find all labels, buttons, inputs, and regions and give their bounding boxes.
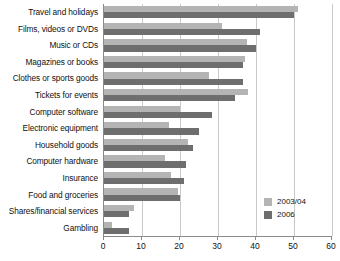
bar-chart: Travel and holidaysFilms, videos or DVDs… bbox=[0, 0, 340, 261]
bar bbox=[104, 12, 294, 18]
category-label: Computer software bbox=[0, 104, 101, 121]
legend-label: 2003/04 bbox=[277, 197, 306, 206]
bar bbox=[104, 95, 235, 101]
bar-group bbox=[104, 37, 332, 54]
bar bbox=[104, 79, 243, 85]
tick-label: 10 bbox=[136, 241, 145, 251]
bar bbox=[104, 29, 260, 35]
tick-label: 40 bbox=[250, 241, 259, 251]
tick-label: 60 bbox=[326, 241, 335, 251]
bar-group bbox=[104, 21, 332, 38]
bar-group bbox=[104, 70, 332, 87]
chart-legend: 2003/042006 bbox=[264, 197, 306, 223]
tick-label: 30 bbox=[212, 241, 221, 251]
bar bbox=[104, 161, 186, 167]
category-label: Electronic equipment bbox=[0, 120, 101, 137]
legend-swatch bbox=[264, 198, 272, 206]
bar bbox=[104, 112, 212, 118]
category-label: Magazines or books bbox=[0, 54, 101, 71]
bar-group bbox=[104, 54, 332, 71]
tick-mark bbox=[217, 237, 218, 240]
category-label: Gambling bbox=[0, 220, 101, 237]
category-label: Computer hardware bbox=[0, 153, 101, 170]
bar-group bbox=[104, 153, 332, 170]
tick-mark bbox=[293, 237, 294, 240]
tick-mark bbox=[255, 237, 256, 240]
bar bbox=[104, 45, 256, 51]
bar bbox=[104, 178, 184, 184]
category-label: Films, videos or DVDs bbox=[0, 21, 101, 38]
category-label: Insurance bbox=[0, 170, 101, 187]
bar bbox=[104, 145, 193, 151]
category-label: Clothes or sports goods bbox=[0, 70, 101, 87]
bar-group bbox=[104, 87, 332, 104]
value-axis: 0102030405060 bbox=[103, 237, 332, 241]
category-label: Tickets for events bbox=[0, 87, 101, 104]
category-label: Food and groceries bbox=[0, 187, 101, 204]
tick-mark bbox=[141, 237, 142, 240]
bar bbox=[104, 211, 129, 217]
legend-label: 2006 bbox=[277, 210, 295, 219]
category-label: Travel and holidays bbox=[0, 4, 101, 21]
bar bbox=[104, 128, 199, 134]
bar bbox=[104, 195, 180, 201]
legend-entry: 2003/04 bbox=[264, 197, 306, 206]
category-axis: Travel and holidaysFilms, videos or DVDs… bbox=[0, 4, 101, 236]
category-label: Music or CDs bbox=[0, 37, 101, 54]
category-label: Household goods bbox=[0, 137, 101, 154]
tick-label: 50 bbox=[288, 241, 297, 251]
bar-group bbox=[104, 103, 332, 120]
legend-swatch bbox=[264, 211, 272, 219]
bar-group bbox=[104, 120, 332, 137]
bar-group bbox=[104, 137, 332, 154]
tick-mark bbox=[179, 237, 180, 240]
bar-group bbox=[104, 170, 332, 187]
gridline bbox=[332, 4, 333, 236]
tick-mark bbox=[331, 237, 332, 240]
bar bbox=[104, 228, 129, 234]
legend-entry: 2006 bbox=[264, 210, 306, 219]
tick-label: 0 bbox=[101, 241, 106, 251]
category-label: Shares/financial services bbox=[0, 203, 101, 220]
bar-group bbox=[104, 4, 332, 21]
tick-label: 20 bbox=[174, 241, 183, 251]
bar bbox=[104, 62, 243, 68]
tick-mark bbox=[103, 237, 104, 240]
